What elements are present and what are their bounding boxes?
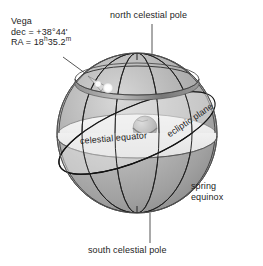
spring-equinox-label: spring equinox [191,181,223,202]
vega-annotation: Vega dec = +38°44' RA = 18h35.2m [11,16,71,48]
south-celestial-pole-label: south celestial pole [88,245,167,256]
vega-right-ascension: RA = 18h35.2m [11,37,71,48]
ra-minutes-unit: m [66,35,72,42]
ra-prefix: RA = 18 [11,37,44,47]
spring-equinox-line-1: spring [191,181,223,192]
vega-declination: dec = +38°44' [11,27,71,38]
ra-minutes-value: 35.2 [48,37,66,47]
vega-name: Vega [11,16,71,27]
spring-equinox-line-2: equinox [191,192,223,203]
north-celestial-pole-label: north celestial pole [110,10,187,21]
celestial-sphere-figure: Vega dec = +38°44' RA = 18h35.2m north c… [0,0,263,266]
